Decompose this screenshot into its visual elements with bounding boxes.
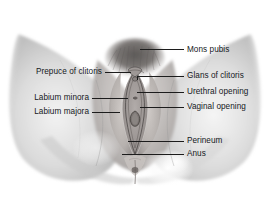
anatomical-figure: Mons pubis Glans of clitoris Urethral op… <box>0 0 269 206</box>
leader-prepuce-of-clitoris <box>105 72 131 73</box>
label-labium-minora: Labium minora <box>0 93 89 102</box>
leader-labium-minora <box>92 98 128 99</box>
leader-glans-of-clitoris <box>137 76 184 77</box>
leader-mons-pubis <box>140 49 184 50</box>
bottom-edge-fade <box>0 178 269 206</box>
label-vaginal-opening: Vaginal opening <box>187 102 246 111</box>
leader-vaginal-opening <box>140 107 184 108</box>
leader-anus <box>122 154 184 155</box>
leader-urethral-opening <box>137 92 184 93</box>
leader-labium-majora <box>92 112 120 113</box>
label-labium-majora: Labium majora <box>0 107 89 116</box>
label-mons-pubis: Mons pubis <box>187 45 229 54</box>
leader-perineum <box>128 141 184 142</box>
label-prepuce-of-clitoris: Prepuce of clitoris <box>0 67 102 76</box>
urethral-opening-marker <box>133 97 137 99</box>
label-perineum: Perineum <box>187 136 222 145</box>
label-urethral-opening: Urethral opening <box>187 87 248 96</box>
label-glans-of-clitoris: Glans of clitoris <box>187 71 244 80</box>
label-anus: Anus <box>187 149 206 158</box>
leader-glans-of-clitoris-drop <box>137 76 138 80</box>
